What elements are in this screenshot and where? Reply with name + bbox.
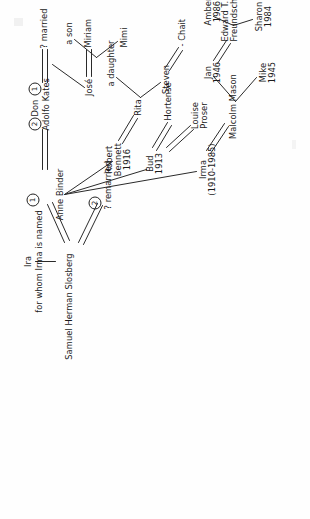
rotated-chart-stage: Ira for whom Irma is named Samuel Herman… xyxy=(0,0,310,519)
scanned-page: Ira for whom Irma is named Samuel Herman… xyxy=(0,0,310,519)
label-bud-year: 1913 xyxy=(154,152,163,173)
line-robert-rita-a xyxy=(118,115,133,140)
marriage-number-samuel-second: 2 xyxy=(88,196,101,209)
label-a-daughter: a daughter xyxy=(106,40,115,86)
label-freundschuh: Freundschuh xyxy=(229,0,238,41)
label-ira-note: for whom Irma is named xyxy=(34,210,43,313)
label-jose: José xyxy=(84,78,93,95)
line-jan-edward-a xyxy=(213,40,226,60)
label-ira: Ira xyxy=(23,255,32,266)
line-rita-to-daughter xyxy=(116,77,140,97)
family-tree-chart: Ira for whom Irma is named Samuel Herman… xyxy=(0,0,310,519)
label-samuel-herman-slosberg: Samuel Herman Slosberg xyxy=(64,253,73,359)
line-rita-to-steven xyxy=(140,82,160,97)
label-sharon-year: 1984 xyxy=(263,5,272,26)
label-anne-binder: Anne Binder xyxy=(55,168,64,220)
label-jan-year: 1946 xyxy=(212,61,221,82)
marriage-number-anne-first: 1 xyxy=(26,193,39,206)
line-bud-hortense-a xyxy=(152,122,167,147)
label-malcolm-mason: Malcolm Mason xyxy=(228,74,237,139)
label-amber-year: 1986 xyxy=(212,0,221,21)
label-hortense: Hortense xyxy=(163,82,172,120)
label-rita: Rita xyxy=(133,99,142,116)
label-adolfo-kates: Adolfo Kates xyxy=(41,78,50,130)
label-question-married: ? married xyxy=(39,8,48,48)
label-chait: - Chait xyxy=(177,18,186,46)
line-malcolm-to-mike xyxy=(235,77,256,101)
label-mimi: Mimi xyxy=(119,27,128,47)
line-bud-louise-b xyxy=(169,129,193,151)
label-mike-year: 1945 xyxy=(267,61,276,82)
label-irma-years: (1910-1985) xyxy=(207,143,216,195)
label-bennett-year: 1916 xyxy=(122,148,131,169)
label-proser: Proser xyxy=(199,102,208,128)
marriage-number-don-second: 2 xyxy=(28,117,41,130)
label-a-son: a son xyxy=(64,22,73,45)
line-don-to-jose xyxy=(52,64,84,87)
label-don: Don xyxy=(30,99,39,116)
marriage-number-don-first: 1 xyxy=(28,82,41,95)
label-miriam: Miriam xyxy=(83,18,92,47)
line-samuel-remarried-b xyxy=(83,205,102,244)
